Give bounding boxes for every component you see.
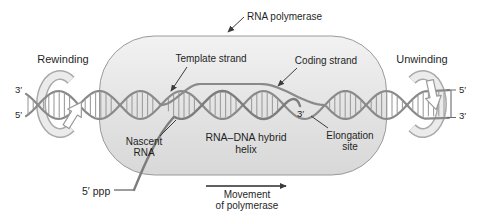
- rna-three-prime-end-label: 3′: [297, 108, 304, 119]
- hybrid-helix-label-line2: helix: [205, 143, 286, 155]
- elongation-site-label: Elongation site: [326, 130, 373, 152]
- figure-rna-transcription: RNA polymerase Rewinding Unwinding Templ…: [0, 0, 482, 218]
- elongation-site-label-line2: site: [326, 141, 373, 152]
- hybrid-helix-label: RNA–DNA hybrid helix: [205, 131, 286, 155]
- template-strand-label: Template strand: [175, 53, 246, 64]
- movement-label-line2: of polymerase: [216, 200, 279, 211]
- dna-left-bottom-end-label: 5′: [15, 109, 22, 120]
- five-prime-ppp-label: 5′ ppp: [82, 185, 110, 197]
- rna-polymerase-label: RNA polymerase: [247, 11, 322, 22]
- movement-label-line1: Movement: [216, 189, 279, 200]
- unwinding-label: Unwinding: [396, 54, 447, 65]
- nascent-rna-label-line2: RNA: [126, 147, 163, 158]
- coding-strand-label: Coding strand: [295, 55, 357, 66]
- right-end-bar: [447, 90, 456, 118]
- rewinding-label: Rewinding: [37, 54, 88, 65]
- nascent-rna-label-line1: Nascent: [126, 136, 163, 147]
- dna-left-top-end-label: 3′: [15, 84, 22, 95]
- nascent-rna-label: Nascent RNA: [126, 136, 163, 158]
- dna-right-top-end-label: 5′: [459, 84, 466, 95]
- transcription-diagram-canvas: [0, 0, 482, 218]
- movement-of-polymerase-label: Movement of polymerase: [216, 189, 279, 211]
- elongation-site-label-line1: Elongation: [326, 130, 373, 141]
- rewinding-arrow-icon: [59, 98, 88, 131]
- rna-polymerase-leader: [228, 17, 244, 32]
- hybrid-helix-label-line1: RNA–DNA hybrid: [205, 131, 286, 143]
- dna-right-bottom-end-label: 3′: [459, 110, 466, 121]
